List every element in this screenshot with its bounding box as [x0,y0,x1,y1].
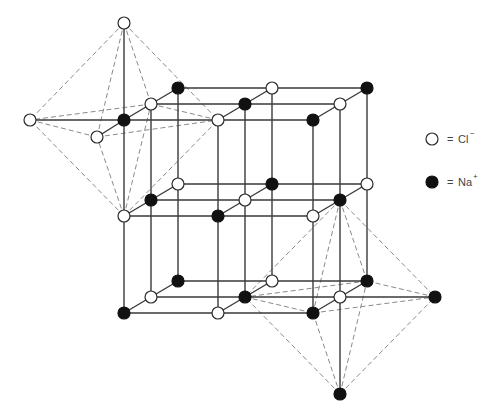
legend-equals-cl: = [447,133,453,145]
octahedron-edge [30,104,151,120]
na-ion-icon [334,388,346,400]
cl-ion-icon [307,210,319,222]
lattice-bonds [30,23,435,394]
na-ion-icon [118,307,130,319]
na-ion-icon [307,114,319,126]
na-ion-icon [172,275,184,287]
octahedron-edge [124,120,218,216]
na-ion-icon [118,114,130,126]
cl-ion-icon [426,133,438,145]
octahedron-edge [245,200,340,297]
octahedron-edge [124,23,151,104]
na-ion-icon [426,176,438,188]
octahedron-edge [313,297,435,313]
cl-ion-icon [118,17,130,29]
na-ion-icon [429,291,441,303]
cl-ion-icon [266,275,278,287]
legend-item-cl: = Cl − [426,129,475,145]
cl-ion-icon [24,114,36,126]
octahedron-edge [245,297,313,313]
na-ion-icon [212,210,224,222]
cl-ion-icon [118,210,130,222]
octahedron-edge [97,120,218,137]
cl-ion-icon [334,291,346,303]
na-ion-icon [145,194,157,206]
legend-charge-na: + [473,172,478,181]
octahedra-dashed-edges [30,23,435,394]
legend: = Cl − = Na + [426,129,478,188]
legend-equals-na: = [447,176,453,188]
na-ion-icon [334,194,346,206]
octahedron-edge [30,120,97,137]
nacl-crystal-diagram: = Cl − = Na + [0,0,500,418]
octahedron-edge [245,281,367,297]
cl-ion-icon [91,131,103,143]
cl-ion-icon [361,178,373,190]
na-ion-icon [361,275,373,287]
cl-ion-icon [145,291,157,303]
cl-ion-icon [145,98,157,110]
na-ion-icon [307,307,319,319]
octahedron-edge [30,23,124,120]
na-ion-icon [361,82,373,94]
cl-ion-icon [172,178,184,190]
octahedron-edge [30,120,124,216]
na-ion-icon [239,291,251,303]
octahedron-edge [367,281,435,297]
legend-charge-cl: − [470,129,475,138]
legend-item-na: = Na + [426,172,478,188]
octahedron-edge [151,104,218,120]
octahedron-edge [97,137,124,216]
legend-label-cl: Cl [458,133,468,145]
na-ion-icon [239,98,251,110]
cl-ion-icon [266,82,278,94]
na-ion-icon [266,178,278,190]
cl-ion-icon [212,307,224,319]
octahedron-edge [340,297,435,394]
octahedron-edge [340,200,367,281]
octahedron-edge [313,313,340,394]
cl-ion-icon [212,114,224,126]
cl-ion-icon [239,194,251,206]
lattice-ions [24,17,441,400]
legend-label-na: Na [458,176,473,188]
na-ion-icon [172,82,184,94]
cl-ion-icon [334,98,346,110]
